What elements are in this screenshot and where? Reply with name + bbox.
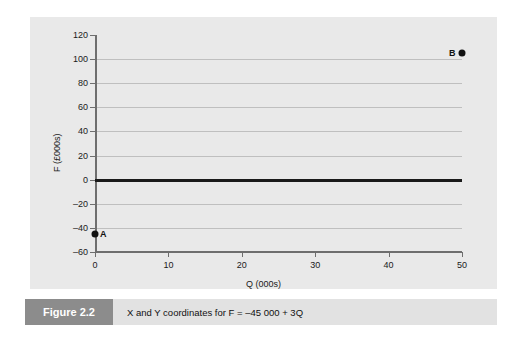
x-axis-tick — [462, 252, 463, 257]
gridline — [95, 156, 462, 157]
y-axis-tick-label: –20 — [73, 199, 88, 209]
y-axis-tick-label: 40 — [78, 126, 88, 136]
x-axis-title: Q (000s) — [30, 279, 497, 289]
y-axis-tick — [90, 156, 95, 157]
x-axis-tick-label: 20 — [237, 260, 247, 270]
y-axis-tick — [90, 59, 95, 60]
x-axis-line — [95, 251, 462, 253]
x-axis-tick — [389, 252, 390, 257]
data-point-b — [459, 50, 466, 57]
gridline — [95, 131, 462, 132]
y-axis-tick — [90, 107, 95, 108]
y-axis-tick-label: 100 — [73, 54, 88, 64]
x-axis-tick-label: 30 — [310, 260, 320, 270]
gridline — [95, 228, 462, 229]
data-point-label-b: B — [449, 48, 456, 58]
y-axis-tick — [90, 35, 95, 36]
x-axis-tick — [315, 252, 316, 257]
y-axis-tick-label: 20 — [78, 151, 88, 161]
y-axis-tick — [90, 83, 95, 84]
x-axis-tick-label: 10 — [163, 260, 173, 270]
zero-line — [95, 179, 462, 182]
y-axis-tick-label: 80 — [78, 78, 88, 88]
x-axis-tick-label: 50 — [457, 260, 467, 270]
y-axis-tick-label: 0 — [83, 175, 88, 185]
gridline — [95, 107, 462, 108]
y-axis-tick — [90, 204, 95, 205]
x-axis-tick — [168, 252, 169, 257]
y-axis-tick-label: –40 — [73, 223, 88, 233]
plot-area: 120100806040200–20–40–60 01020304050 AB — [95, 35, 462, 252]
y-axis-tick-label: –60 — [73, 247, 88, 257]
figure-number: Figure 2.2 — [25, 299, 113, 325]
x-axis-tick — [242, 252, 243, 257]
gridline — [95, 204, 462, 205]
data-point-label-a: A — [100, 229, 107, 239]
caption-bar: Figure 2.2 X and Y coordinates for F = –… — [25, 299, 497, 325]
caption-text: X and Y coordinates for F = –45 000 + 3Q — [113, 299, 497, 325]
y-axis-tick-label: 120 — [73, 30, 88, 40]
chart-panel: 120100806040200–20–40–60 01020304050 AB … — [30, 17, 497, 289]
y-axis-tick — [90, 131, 95, 132]
y-axis-tick — [90, 228, 95, 229]
figure-container: 120100806040200–20–40–60 01020304050 AB … — [0, 0, 522, 347]
gridline — [95, 83, 462, 84]
y-axis-title: F (£000s) — [52, 133, 62, 172]
x-axis-tick-label: 40 — [384, 260, 394, 270]
y-axis-line — [95, 35, 97, 252]
gridline — [95, 59, 462, 60]
x-axis-tick — [95, 252, 96, 257]
y-axis-tick-label: 60 — [78, 102, 88, 112]
data-point-a — [92, 230, 99, 237]
x-axis-tick-label: 0 — [92, 260, 97, 270]
